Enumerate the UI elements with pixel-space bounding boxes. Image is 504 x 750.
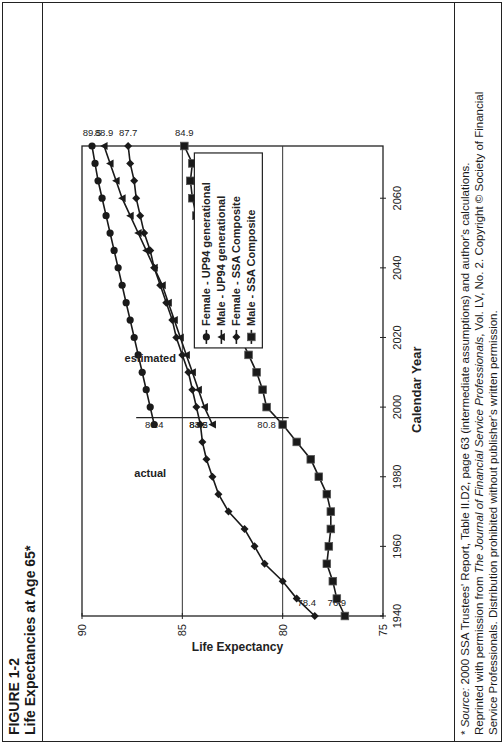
circle-marker <box>106 229 113 236</box>
square-marker <box>248 333 256 341</box>
source-note: * Source: 2000 SSA Trustees' Report, Tab… <box>458 9 472 735</box>
x-tick-label: 2020 <box>391 325 403 349</box>
square-marker <box>315 473 323 481</box>
annotation-label: 86.4 <box>145 419 164 430</box>
legend-label: Male - SSA Composite <box>245 210 257 326</box>
diamond-marker <box>251 542 259 550</box>
y-tick-label: 75 <box>377 624 389 636</box>
diamond-marker <box>202 455 210 463</box>
annotation-label: estimated <box>125 352 176 364</box>
annotation-label: 88.9 <box>95 127 114 138</box>
x-tick-label: 1940 <box>391 604 403 628</box>
circle-marker <box>88 142 95 149</box>
square-marker <box>327 525 335 533</box>
diamond-marker <box>192 403 200 411</box>
legend-item: Female - SSA Composite <box>230 196 242 344</box>
rotated-page: FIGURE 1-2 Life Expectancies at Age 65* … <box>0 0 504 750</box>
y-tick-label: 90 <box>76 624 88 636</box>
figure-title: Life Expectancies at Age 65* <box>22 9 38 735</box>
square-marker <box>323 560 331 568</box>
x-tick-label: 1960 <box>391 534 403 558</box>
circle-marker <box>139 369 146 376</box>
square-marker <box>341 612 349 620</box>
square-marker <box>259 386 267 394</box>
annotation-label: 80.8 <box>257 419 276 430</box>
square-marker <box>325 543 333 551</box>
y-axis-title: Life Expectancy <box>192 640 284 654</box>
square-marker <box>263 403 271 411</box>
legend-label: Male - UP94 generational <box>215 196 227 326</box>
square-marker <box>279 421 287 429</box>
circle-marker <box>91 160 98 167</box>
annotation-label: 87.7 <box>119 127 138 138</box>
square-marker <box>245 351 253 359</box>
diamond-marker <box>214 490 222 498</box>
y-tick-label: 80 <box>277 624 289 636</box>
legend: Female - UP94 generationalMale - UP94 ge… <box>194 153 262 348</box>
legend-label: Female - UP94 generational <box>200 182 212 326</box>
annotation-label: 83.5 <box>189 419 208 430</box>
annotation-label: 76.9 <box>328 597 347 608</box>
x-axis-title: Calendar Year <box>409 346 424 432</box>
square-marker <box>307 456 315 464</box>
permission-note: Reprinted with permission from The Journ… <box>472 9 486 735</box>
diamond-marker <box>188 386 196 394</box>
x-tick-label: 2000 <box>391 395 403 419</box>
square-marker <box>181 142 189 150</box>
square-marker <box>293 438 301 446</box>
diamond-marker <box>124 142 132 150</box>
circle-marker <box>115 264 122 271</box>
circle-marker <box>143 386 150 393</box>
circle-marker <box>123 299 130 306</box>
annotation-label: 78.4 <box>298 597 317 608</box>
square-marker <box>327 508 335 516</box>
legend-label: Female - SSA Composite <box>230 196 242 326</box>
triangle-marker <box>208 421 216 429</box>
figure-footer: * Source: 2000 SSA Trustees' Report, Tab… <box>454 3 501 741</box>
distribution-note: Service Professionals. Distribution proh… <box>486 9 500 735</box>
figure-label: FIGURE 1-2 <box>6 9 22 735</box>
diamond-marker <box>136 212 144 220</box>
circle-marker <box>98 195 105 202</box>
legend-item: Female - UP94 generational <box>200 182 212 344</box>
diamond-marker <box>198 438 206 446</box>
annotation-label: 84.9 <box>175 127 194 138</box>
square-marker <box>253 368 261 376</box>
x-tick-label: 2040 <box>391 256 403 280</box>
x-tick-label: 1980 <box>391 464 403 488</box>
diamond-marker <box>130 177 138 185</box>
square-marker <box>323 490 331 498</box>
life-expectancy-chart: 194019601980200020202040206075808590Cale… <box>41 1 454 741</box>
circle-marker <box>94 177 101 184</box>
diamond-marker <box>126 159 134 167</box>
triangle-marker <box>126 212 134 220</box>
square-marker <box>329 577 337 585</box>
circle-marker <box>119 282 126 289</box>
circle-marker <box>147 404 154 411</box>
figure-frame: FIGURE 1-2 Life Expectancies at Age 65* … <box>2 2 502 742</box>
circle-marker <box>127 316 134 323</box>
diamond-marker <box>208 473 216 481</box>
figure-header: FIGURE 1-2 Life Expectancies at Age 65* <box>3 3 43 741</box>
annotation-label: actual <box>134 467 166 479</box>
legend-item: Male - SSA Composite <box>245 210 257 344</box>
square-marker <box>187 177 195 185</box>
diamond-marker <box>132 194 140 202</box>
series-circle <box>88 142 157 428</box>
circle-marker <box>203 333 210 340</box>
x-tick-label: 2060 <box>391 186 403 210</box>
circle-marker <box>102 212 109 219</box>
circle-marker <box>111 247 118 254</box>
triangle-marker <box>100 142 108 150</box>
legend-item: Male - UP94 generational <box>215 196 227 344</box>
circle-marker <box>131 334 138 341</box>
y-tick-label: 85 <box>176 624 188 636</box>
